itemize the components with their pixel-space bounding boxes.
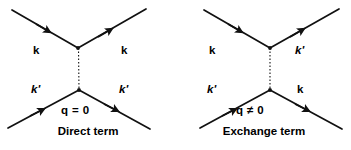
label-incoming-lower-momentum: k' <box>31 84 40 96</box>
caption-exchange-term: Exchange term <box>176 126 351 138</box>
vertex-upper <box>76 46 80 50</box>
label-outgoing-upper-momentum: k <box>121 45 128 57</box>
label-incoming-upper-momentum: k <box>33 45 40 57</box>
leg-outgoing-upper <box>270 9 339 48</box>
arrowhead-incoming-upper <box>228 24 240 31</box>
label-outgoing-upper-momentum: k' <box>295 45 304 57</box>
feynman-diagram-figure: k k k' k' q = 0 Direct term <box>0 0 351 150</box>
label-incoming-upper-momentum: k <box>209 45 216 57</box>
vertex-lower <box>77 88 81 92</box>
interaction-line-dotted <box>79 48 80 90</box>
leg-outgoing-upper <box>78 9 146 48</box>
arrowhead-outgoing-lower <box>104 104 116 110</box>
arrowhead-outgoing-lower <box>295 104 307 110</box>
label-incoming-lower-momentum: k' <box>207 84 216 96</box>
diagram-direct-term: k k k' k' q = 0 Direct term <box>0 0 176 150</box>
label-outgoing-lower-momentum: k <box>297 84 304 96</box>
arrowhead-outgoing-upper <box>290 30 302 37</box>
arrowhead-outgoing-upper <box>98 30 110 37</box>
arrowhead-incoming-lower <box>30 110 42 116</box>
arrowhead-incoming-upper <box>36 24 48 31</box>
caption-direct-term: Direct term <box>0 126 176 138</box>
label-outgoing-lower-momentum: k' <box>119 84 128 96</box>
arrowhead-incoming-lower <box>222 110 234 116</box>
vertex-lower <box>268 88 272 92</box>
label-momentum-transfer: q = 0 <box>61 105 90 117</box>
vertex-upper <box>268 46 272 50</box>
diagram-exchange-term: k k' k' k q ≠ 0 Exchange term <box>176 0 351 150</box>
label-momentum-transfer: q ≠ 0 <box>236 105 264 117</box>
